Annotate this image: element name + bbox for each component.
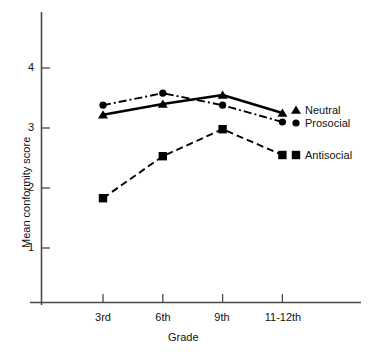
- marker-prosocial-9th: [219, 102, 226, 109]
- line-chart: 4 3 2 1 3rd 6th 9th 11-12th Mean conform…: [0, 0, 373, 352]
- marker-antisocial-3rd: [99, 194, 107, 202]
- plot-area: [0, 0, 373, 352]
- y-tick-label-3: 3: [16, 121, 34, 133]
- y-axis-title: Mean conformity score: [20, 137, 32, 248]
- marker-prosocial-11-12th: [279, 118, 286, 125]
- legend-label-antisocial: Antisocial: [305, 149, 352, 161]
- marker-antisocial-11-12th: [278, 151, 286, 159]
- marker-prosocial-3rd: [99, 102, 106, 109]
- x-tick-label-3rd: 3rd: [78, 311, 128, 323]
- x-tick-label-6th: 6th: [138, 311, 188, 323]
- marker-antisocial-6th: [159, 152, 167, 160]
- series-line-prosocial: [103, 93, 282, 122]
- y-axis-ticks: [42, 68, 51, 248]
- x-axis-ticks: [103, 294, 282, 303]
- legend-marker-prosocial: [292, 119, 299, 126]
- series-lines: [103, 93, 282, 198]
- marker-antisocial-9th: [218, 125, 226, 133]
- y-tick-label-4: 4: [16, 61, 34, 73]
- x-axis-title: Grade: [168, 331, 199, 343]
- legend-marker-neutral: [291, 105, 301, 113]
- x-tick-label-9th: 9th: [197, 311, 247, 323]
- legend-marker-antisocial: [292, 151, 300, 159]
- legend-label-prosocial: Prosocial: [305, 117, 350, 129]
- series-line-neutral: [103, 95, 282, 115]
- marker-prosocial-6th: [159, 90, 166, 97]
- legend-label-neutral: Neutral: [305, 104, 340, 116]
- x-tick-label-11-12th: 11-12th: [250, 311, 316, 323]
- legend-markers: [291, 105, 301, 159]
- series-line-antisocial: [103, 129, 282, 198]
